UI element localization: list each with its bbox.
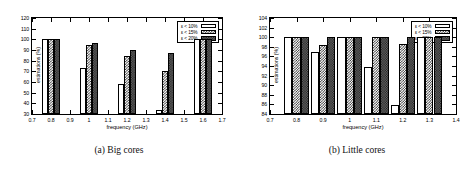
legend-label-a-0: ε < 10% [181,24,198,29]
y-tick-b [452,56,456,57]
bar-b-g0-s2 [301,37,309,114]
legend-swatch-b-0 [435,24,450,28]
y-tick-b [452,85,456,86]
x-tick-a [184,110,185,114]
y-tick-b [270,95,274,96]
legend-swatch-a-1 [201,30,216,34]
legend-entry-a-0: ε < 10% [181,24,216,29]
y-tick-b [452,104,456,105]
x-tick-label-b: 0.7 [266,117,273,123]
y-tick-label-b: 100 [259,34,267,40]
y-tick-a [32,71,36,72]
y-tick-b [270,37,274,38]
y-axis-title-b: estimations (%) [273,47,279,83]
bar-b-g5-s1 [425,37,433,114]
bar-b-g1-s1 [319,45,327,114]
bar-b-g4-s1 [399,44,407,114]
y-tick-label-b: 88 [261,92,267,98]
plot-area-big-cores: estimations (%) frequency (GHz) ε < 10%ε… [31,17,223,115]
figure-captions-row: (a) Big cores (b) Little cores [0,140,476,170]
x-tick-a [222,18,223,22]
figure-two-panel-bar-charts: estimations (%) frequency (GHz) ε < 10%ε… [0,0,476,170]
y-tick-label-b: 94 [261,63,267,69]
y-tick-a [218,50,222,51]
legend-entry-b-1: ε < 15% [415,30,450,35]
x-tick-b [456,110,457,114]
bar-a-g2-s2 [130,50,136,114]
x-tick-b [376,18,377,22]
y-axis-title-a: estimations (%) [35,47,41,83]
bar-b-g5-s2 [434,37,442,114]
y-tick-label-a: 50 [23,90,29,96]
x-tick-label-a: 1.1 [104,117,111,123]
chart-panels-row: estimations (%) frequency (GHz) ε < 10%ε… [0,0,476,140]
y-tick-label-a: 40 [23,100,29,106]
y-tick-label-b: 98 [261,44,267,50]
bar-b-g3-s2 [380,37,388,114]
x-tick-label-a: 1 [88,117,91,123]
x-tick-label-a: 1.2 [123,117,130,123]
y-tick-b [270,85,274,86]
y-tick-a [32,39,36,40]
bar-b-g3-s1 [372,37,380,114]
y-tick-a [218,82,222,83]
legend-label-b-0: ε < 10% [415,24,432,29]
y-tick-b [270,47,274,48]
x-axis-title-b: frequency (GHz) [342,124,383,130]
x-tick-label-b: 0.9 [320,117,327,123]
y-tick-label-a: 80 [23,58,29,64]
bar-b-g1-s2 [327,37,335,114]
y-tick-a [32,103,36,104]
y-tick-b [270,66,274,67]
y-tick-b [270,28,274,29]
bar-b-g2-s0 [337,37,345,114]
x-tick-label-b: 1.2 [399,117,406,123]
y-tick-a [218,93,222,94]
x-tick-b [456,18,457,22]
bar-b-g4-s0 [391,105,399,114]
y-tick-a [32,82,36,83]
bar-b-g0-s0 [284,37,292,114]
legend-swatch-a-0 [201,24,216,28]
y-tick-a [218,103,222,104]
caption-panel-b: (b) Little cores [238,140,476,170]
legend-label-b-1: ε < 15% [415,30,432,35]
bar-b-g1-s0 [311,52,319,114]
x-tick-b [270,18,271,22]
x-tick-b [297,18,298,22]
bar-b-g2-s1 [346,37,354,114]
x-tick-a [108,18,109,22]
legend-entry-b-0: ε < 10% [415,24,450,29]
legend-entry-a-1: ε < 15% [181,30,216,35]
x-tick-label-a: 1.4 [161,117,168,123]
y-tick-a [32,114,36,115]
y-tick-label-a: 120 [21,15,29,21]
y-tick-b [452,95,456,96]
x-tick-label-b: 1.1 [373,117,380,123]
y-tick-b [452,47,456,48]
bar-b-g4-s2 [407,37,415,114]
x-tick-a [32,110,33,114]
y-tick-a [32,50,36,51]
x-tick-label-a: 1.5 [180,117,187,123]
y-tick-a [218,61,222,62]
y-tick-a [32,61,36,62]
x-tick-b [270,110,271,114]
chart-panel-little-cores: estimations (%) frequency (GHz) ε < 10%ε… [238,0,476,140]
y-tick-b [270,104,274,105]
x-tick-a [146,110,147,114]
y-tick-label-a: 90 [23,47,29,53]
x-tick-label-b: 1.3 [426,117,433,123]
x-tick-b [323,18,324,22]
y-tick-label-a: 100 [21,36,29,42]
x-tick-a [165,18,166,22]
chart-panel-big-cores: estimations (%) frequency (GHz) ε < 10%ε… [0,0,238,140]
bar-a-g1-s2 [92,43,98,114]
x-axis-title-a: frequency (GHz) [106,124,147,130]
y-tick-b [452,76,456,77]
y-tick-b [270,114,274,115]
x-tick-a [222,110,223,114]
y-tick-label-b: 96 [261,53,267,59]
legend-swatch-b-1 [435,30,450,34]
x-tick-a [146,18,147,22]
